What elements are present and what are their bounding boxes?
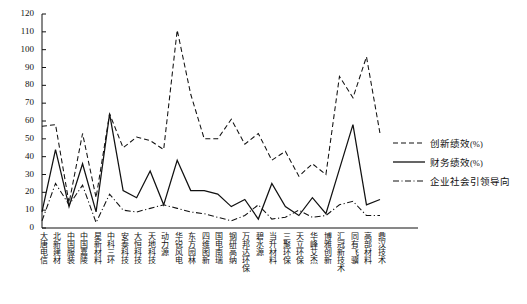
legend-label-social: 企业社会引领导向 <box>430 174 510 188</box>
x-tick-label: 东方园林 <box>187 232 195 264</box>
x-tick-label: 当升材料 <box>268 232 276 264</box>
x-tick-label: 北新建材 <box>51 232 59 264</box>
x-tick-label: 天立环保 <box>295 232 303 264</box>
x-tick-label: 钢研高纳 <box>227 232 235 264</box>
x-tick-label: 中国服装 <box>65 232 73 264</box>
x-tick-label: 中国嘉陵 <box>78 232 86 264</box>
x-tick-label: 四维图新 <box>200 232 208 264</box>
x-tick-label: 动力源 <box>159 232 167 256</box>
x-tick-label: 大唐电信 <box>38 232 46 264</box>
x-tick-label: 鼎汉技术 <box>376 232 384 264</box>
legend-item-innovation: 创新绩效(%) <box>392 133 527 152</box>
x-tick-label: 高部材料 <box>362 232 370 264</box>
x-tick-label: 华锐风电 <box>173 232 181 264</box>
x-tick-label: 安泰科技 <box>119 232 127 264</box>
x-tick-label: 天地科技 <box>146 232 154 264</box>
x-tick-label: 同有飞骥 <box>349 232 357 264</box>
x-tick-label: 万邦达环保 <box>241 232 249 272</box>
legend-swatch-solid <box>392 157 426 167</box>
chart-figure: 0102030405060708090100110120 大唐电信北新建材中国服… <box>0 0 527 304</box>
x-tick-label: 大恒科技 <box>132 232 140 264</box>
legend-item-financial: 财务绩效(%) <box>392 152 527 171</box>
legend-swatch-dashdot <box>392 176 426 186</box>
x-tick-label: 汇冠新技术 <box>335 232 343 272</box>
x-tick-label: 星新材料 <box>92 232 100 264</box>
legend-label-financial: 财务绩效(%) <box>430 155 483 169</box>
legend-swatch-dashed <box>392 138 426 148</box>
x-tick-label: 华峰艾杰 <box>308 232 316 264</box>
x-tick-label: 三聚环保 <box>281 232 289 264</box>
x-tick-label: 博雅创新 <box>322 232 330 264</box>
x-tick-label: 碧水源 <box>254 232 262 256</box>
legend-label-innovation: 创新绩效(%) <box>430 136 483 150</box>
chart-legend: 创新绩效(%) 财务绩效(%) 企业社会引领导向 <box>392 133 527 190</box>
legend-item-social: 企业社会引领导向 <box>392 171 527 190</box>
x-tick-label: 中科三环 <box>105 232 113 264</box>
x-tick-label: 国电南瑞 <box>214 232 222 264</box>
